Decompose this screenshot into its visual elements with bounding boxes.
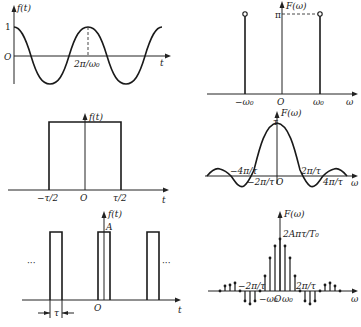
origin-label: O	[274, 294, 282, 304]
peak-label: 2Aπτ/T₀	[282, 229, 319, 239]
x-tick-period: 2π/ω₀	[73, 59, 100, 69]
tau-arrow-left-icon	[62, 311, 68, 315]
F-axis-arrow-icon	[278, 211, 283, 218]
panel-cos-spectrum: F(ω) π −ω₀ O ω₀ ω	[207, 1, 358, 107]
pulse-right	[147, 232, 159, 300]
t-axis-arrow-icon	[163, 188, 169, 193]
x-tick-neg-2pi-tau: −2π/τ	[238, 281, 266, 291]
f-axis-arrow-icon	[12, 5, 17, 12]
x-tick-neg-half-tau: −τ/2	[37, 193, 59, 203]
signal-spectrum-diagram: f(t) 1 O 2π/ω₀ t F(ω) π −ω₀ O ω₀ ω f(t) …	[0, 0, 361, 327]
F-axis-arrow-icon	[280, 1, 285, 8]
origin-label: O	[276, 177, 284, 187]
y-label: F(ω)	[283, 209, 305, 219]
x-label: ω	[346, 97, 354, 107]
x-tick-omega0: ω₀	[313, 97, 324, 107]
tau-arrow-right-icon	[44, 311, 50, 315]
x-label: ω	[351, 178, 359, 188]
x-tick-neg-4pi-tau: −4π/τ	[230, 166, 258, 176]
x-label: t	[160, 58, 164, 68]
x-tick-2pi-tau: 2π/τ	[300, 166, 322, 176]
x-label: t	[162, 195, 166, 205]
x-label: ω	[351, 294, 359, 304]
panel-pulse-train-spectrum: F(ω) 2Aπτ/T₀ −2π/τ −ω₀ O ω₀ 2π/τ ω	[208, 209, 359, 305]
y-tick-tau: τ	[273, 117, 279, 127]
y-tick-pi: π	[275, 10, 281, 20]
x-tick-neg-omega0: −ω₀	[235, 97, 254, 107]
t-axis-arrow-icon	[175, 298, 181, 303]
omega-axis-arrow-icon	[352, 92, 358, 97]
y-tick-1: 1	[5, 22, 11, 32]
panel-rect-spectrum: F(ω) τ −4π/τ −2π/τ O 2π/τ 4π/τ ω	[205, 108, 359, 188]
impulse-pos-head	[318, 12, 322, 16]
panel-pulse-train-time: ··· ··· f(t) A O t τ	[22, 209, 359, 318]
impulse-neg-head	[243, 12, 247, 16]
origin-label: O	[277, 97, 285, 107]
panel-rect-time: f(t) −τ/2 O τ/2 t	[8, 112, 169, 205]
x-tick-2pi-tau: 2π/τ	[295, 281, 317, 291]
x-tick-neg-2pi-tau: −2π/τ	[247, 177, 275, 187]
y-label: f(t)	[88, 112, 103, 122]
x-tick-half-tau: τ/2	[113, 193, 127, 203]
t-axis-arrow-icon	[165, 54, 171, 59]
panel-cos-time: f(t) 1 O 2π/ω₀ t	[4, 3, 171, 84]
y-label: f(t)	[16, 3, 31, 13]
amplitude-label: A	[105, 222, 113, 232]
ellipsis-right: ···	[162, 258, 171, 268]
f-axis-arrow-icon	[83, 113, 88, 120]
x-tick-4pi-tau: 4π/τ	[322, 177, 344, 187]
origin-label: O	[80, 193, 88, 203]
f-axis-arrow-icon	[102, 211, 107, 218]
y-label: F(ω)	[280, 108, 302, 118]
origin-label: O	[94, 303, 102, 313]
ellipsis-left: ···	[27, 258, 36, 268]
omega-axis-arrow-icon	[352, 289, 358, 294]
x-label: t	[178, 305, 182, 315]
origin-label: O	[4, 52, 12, 62]
tau-label: τ	[54, 308, 60, 318]
y-label: F(ω)	[285, 1, 307, 11]
x-tick-omega0: ω₀	[282, 294, 293, 304]
y-label: f(t)	[107, 209, 122, 219]
pulse-left	[50, 232, 62, 300]
